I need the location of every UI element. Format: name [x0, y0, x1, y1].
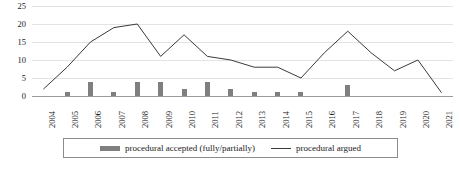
- x-tick-label: 2014: [282, 111, 291, 128]
- x-tick-label: 2017: [352, 111, 361, 128]
- chart-legend: procedural accepted (fully/partially) pr…: [63, 138, 398, 158]
- x-tick-label: 2009: [165, 111, 174, 128]
- x-tick-label: 2004: [48, 111, 57, 128]
- y-axis: 0510152025: [0, 0, 30, 102]
- legend-label-procedural-accepted: procedural accepted (fully/partially): [125, 144, 255, 153]
- legend-entry-procedural-argued: procedural argued: [271, 144, 361, 153]
- x-tick-label: 2007: [118, 111, 127, 128]
- line-series-procedural-argued: [32, 6, 453, 96]
- line-path-svg: [32, 6, 453, 96]
- y-tick-label: 5: [22, 74, 26, 83]
- x-tick-label: 2018: [375, 111, 384, 128]
- x-tick-label: 2019: [399, 111, 408, 128]
- x-tick-label: 2015: [305, 111, 314, 128]
- x-tick-label: 2008: [141, 111, 150, 128]
- legend-entry-procedural-accepted: procedural accepted (fully/partially): [100, 144, 255, 153]
- x-tick-label: 2020: [422, 111, 431, 128]
- y-tick-label: 25: [18, 2, 27, 11]
- x-tick-label: 2005: [71, 111, 80, 128]
- legend-label-procedural-argued: procedural argued: [296, 144, 361, 153]
- plot-area: [32, 6, 453, 96]
- x-tick-label: 2010: [188, 111, 197, 128]
- legend-line-swatch-icon: [271, 148, 291, 149]
- y-tick-label: 20: [18, 20, 27, 29]
- x-tick-label: 2006: [94, 111, 103, 128]
- x-tick-label: 2016: [328, 111, 337, 128]
- y-tick-label: 15: [18, 38, 27, 47]
- legend-bar-swatch-icon: [100, 146, 120, 151]
- y-tick-label: 0: [22, 92, 26, 101]
- x-tick-label: 2011: [211, 111, 220, 128]
- plot-wrapper: 0510152025: [0, 0, 461, 102]
- y-tick-label: 10: [18, 56, 27, 65]
- chart-container: 0510152025 20042005200620072008200920102…: [0, 0, 461, 170]
- x-axis: 2004200520062007200820092010201120122013…: [32, 97, 453, 133]
- x-tick-label: 2021: [445, 111, 454, 128]
- x-tick-label: 2012: [235, 111, 244, 128]
- x-tick-label: 2013: [258, 111, 267, 128]
